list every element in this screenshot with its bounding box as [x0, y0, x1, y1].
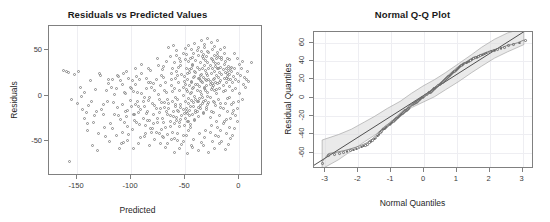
data-point	[240, 67, 243, 70]
axis-tick-mark	[44, 140, 48, 141]
data-point	[67, 71, 70, 74]
data-point	[179, 60, 182, 63]
data-point	[170, 72, 173, 75]
data-point	[161, 68, 164, 71]
data-point	[76, 102, 79, 105]
data-point	[202, 144, 205, 147]
data-point	[115, 87, 118, 90]
data-point	[176, 74, 179, 77]
data-point	[192, 101, 195, 104]
data-point	[174, 77, 177, 80]
data-point	[198, 77, 201, 80]
data-point	[92, 121, 95, 124]
data-point	[136, 91, 139, 94]
data-point	[166, 133, 169, 136]
data-point	[238, 63, 241, 66]
data-point	[191, 56, 194, 59]
data-point	[111, 127, 114, 130]
axis-tick-label: -50	[20, 136, 42, 145]
data-point	[247, 80, 250, 83]
axis-tick-label: 1	[454, 174, 458, 183]
data-point	[225, 81, 228, 84]
data-point	[162, 65, 165, 68]
axis-tick-label: 40	[297, 56, 306, 64]
data-point	[131, 128, 134, 131]
data-point	[184, 83, 187, 86]
data-point	[215, 92, 218, 95]
axis-tick-label: 0	[236, 181, 240, 190]
data-point	[234, 87, 237, 90]
data-point	[152, 113, 155, 116]
data-point	[197, 54, 200, 57]
data-point	[187, 44, 190, 47]
data-point	[143, 96, 146, 99]
residuals-vs-predicted-panel: Residuals vs Predicted Values -150-100-5…	[0, 0, 275, 222]
data-point	[233, 52, 236, 55]
data-point	[132, 90, 135, 93]
figure-panel-container: Residuals vs Predicted Values -150-100-5…	[0, 0, 550, 222]
data-point	[95, 110, 98, 113]
data-point	[163, 89, 166, 92]
axis-tick-label: -100	[123, 181, 138, 190]
data-point	[250, 61, 253, 64]
data-point	[171, 67, 174, 70]
data-point	[173, 151, 176, 154]
data-point	[163, 101, 166, 104]
data-point	[79, 86, 82, 89]
data-point	[70, 98, 73, 101]
data-point	[150, 131, 153, 134]
data-point	[102, 113, 105, 116]
data-point	[105, 89, 108, 92]
data-point	[137, 111, 140, 114]
data-point	[89, 79, 92, 82]
data-point	[112, 101, 115, 104]
data-point	[194, 59, 197, 62]
data-point	[204, 129, 207, 132]
data-point	[142, 100, 145, 103]
data-point	[160, 128, 163, 131]
data-point	[158, 98, 161, 101]
data-point	[167, 46, 170, 49]
data-point	[193, 42, 196, 45]
axis-tick-mark	[489, 168, 490, 172]
data-point	[190, 48, 193, 51]
data-point	[165, 60, 168, 63]
data-point	[217, 67, 220, 70]
data-point	[86, 122, 89, 125]
data-point	[229, 117, 232, 120]
axis-tick-mark	[76, 175, 77, 179]
data-point	[218, 114, 221, 117]
data-point	[164, 81, 167, 84]
data-point	[217, 76, 220, 79]
data-point	[175, 119, 178, 122]
data-point	[215, 88, 218, 91]
data-point	[201, 96, 204, 99]
data-point	[177, 81, 180, 84]
data-point	[214, 104, 217, 107]
axis-tick-mark	[522, 168, 523, 172]
data-point	[228, 96, 231, 99]
data-point	[83, 91, 86, 94]
axis-tick-mark	[309, 42, 313, 43]
data-point	[209, 116, 212, 119]
data-point	[172, 44, 175, 47]
data-point	[507, 44, 510, 47]
axis-tick-label: -60	[297, 146, 306, 157]
data-point	[196, 49, 199, 52]
data-point	[216, 39, 219, 42]
data-point	[153, 89, 156, 92]
data-point	[146, 119, 149, 122]
data-point	[224, 102, 227, 105]
data-point	[144, 124, 147, 127]
data-point	[178, 89, 181, 92]
data-point	[158, 111, 161, 114]
data-point	[206, 37, 209, 40]
data-point	[226, 72, 229, 75]
qq-reference-line	[314, 32, 532, 167]
data-point	[210, 124, 213, 127]
qq-plot-title: Normal Q-Q Plot	[275, 9, 550, 20]
data-point	[229, 78, 232, 81]
data-point	[230, 66, 233, 69]
data-point	[81, 108, 84, 111]
axis-tick-mark	[390, 168, 391, 172]
